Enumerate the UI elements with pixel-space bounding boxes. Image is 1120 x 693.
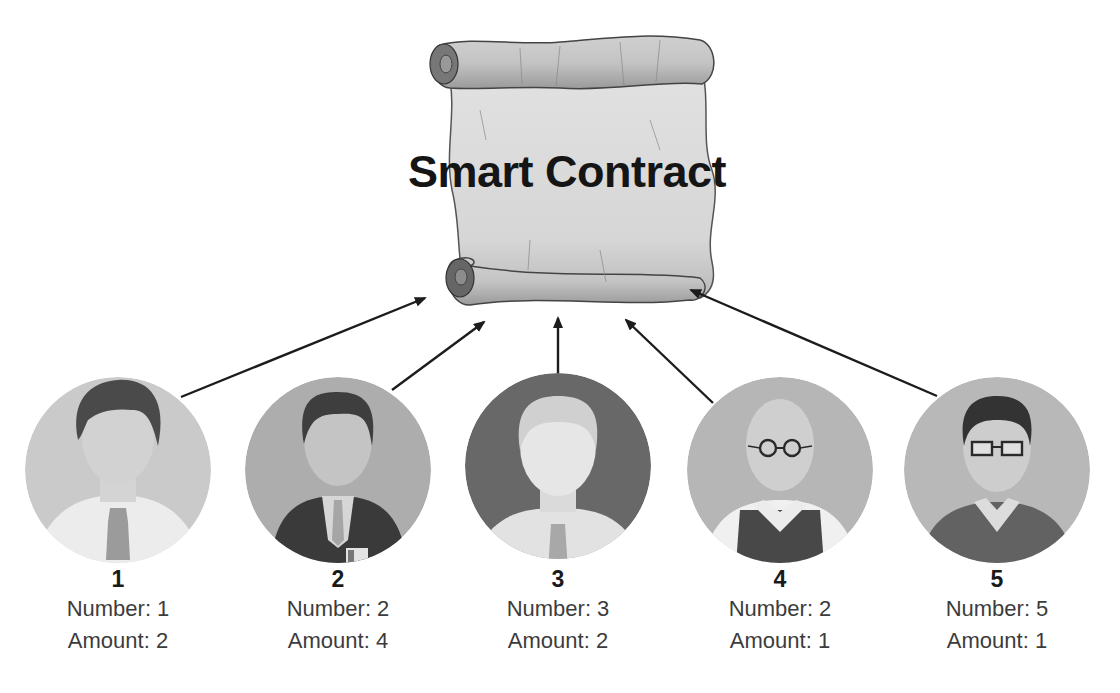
participant-amount: Amount: 1 bbox=[887, 625, 1107, 657]
smart-contract-diagram: Smart Contract 1 Number: 1 Amount: 2 2 N… bbox=[0, 0, 1120, 693]
participant-5-label: 5 Number: 5 Amount: 1 bbox=[887, 565, 1107, 657]
avatar-4-old-man-glasses-icon bbox=[687, 377, 873, 580]
avatar-3-man-icon bbox=[465, 373, 651, 580]
participant-1-label: 1 Number: 1 Amount: 2 bbox=[8, 565, 228, 657]
participant-number: Number: 2 bbox=[228, 593, 448, 625]
participant-number: Number: 1 bbox=[8, 593, 228, 625]
participant-number: Number: 5 bbox=[887, 593, 1107, 625]
arrow-5-to-contract bbox=[691, 290, 937, 396]
avatar-1-young-man-icon bbox=[25, 377, 211, 580]
participant-id: 2 bbox=[228, 565, 448, 593]
participant-number: Number: 2 bbox=[670, 593, 890, 625]
participant-2-label: 2 Number: 2 Amount: 4 bbox=[228, 565, 448, 657]
arrow-2-to-contract bbox=[392, 322, 484, 390]
participant-3-label: 3 Number: 3 Amount: 2 bbox=[448, 565, 668, 657]
participant-id: 4 bbox=[670, 565, 890, 593]
arrow-4-to-contract bbox=[626, 320, 713, 403]
participant-amount: Amount: 4 bbox=[228, 625, 448, 657]
participant-amount: Amount: 2 bbox=[8, 625, 228, 657]
avatar-2-businessman-icon bbox=[245, 377, 431, 580]
arrow-1-to-contract bbox=[181, 298, 425, 397]
participant-amount: Amount: 2 bbox=[448, 625, 668, 657]
participant-number: Number: 3 bbox=[448, 593, 668, 625]
avatar-5-man-glasses-icon bbox=[904, 377, 1090, 580]
participant-amount: Amount: 1 bbox=[670, 625, 890, 657]
smart-contract-title: Smart Contract bbox=[408, 146, 726, 198]
participant-4-label: 4 Number: 2 Amount: 1 bbox=[670, 565, 890, 657]
participant-id: 3 bbox=[448, 565, 668, 593]
participant-id: 1 bbox=[8, 565, 228, 593]
participant-id: 5 bbox=[887, 565, 1107, 593]
